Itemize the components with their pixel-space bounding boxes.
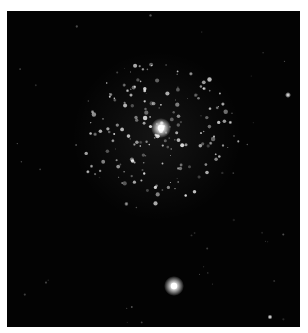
cluster-star: [233, 135, 235, 137]
cluster-star: [154, 186, 157, 189]
faint-star: [233, 219, 235, 221]
cluster-star: [156, 123, 158, 125]
cluster-star: [145, 115, 146, 116]
cluster-star: [215, 106, 219, 110]
cluster-star: [202, 80, 206, 84]
cluster-star: [205, 163, 208, 166]
cluster-star: [174, 139, 176, 141]
faint-star: [203, 266, 204, 267]
cluster-star: [143, 116, 148, 121]
cluster-star: [87, 100, 89, 102]
cluster-star: [134, 116, 137, 119]
cluster-star: [133, 181, 136, 184]
cluster-star: [237, 140, 239, 142]
cluster-star: [130, 174, 133, 177]
cluster-star: [206, 144, 210, 148]
cluster-star: [175, 103, 179, 107]
cluster-star: [158, 107, 159, 108]
cluster-star: [130, 138, 132, 140]
star-field: [7, 11, 300, 327]
cluster-star: [124, 202, 129, 207]
cluster-star: [164, 139, 167, 142]
cluster-star: [123, 101, 126, 104]
cluster-star: [162, 163, 164, 165]
cluster-star: [151, 65, 153, 67]
cluster-star: [155, 134, 157, 136]
cluster-star: [84, 152, 87, 155]
cluster-star: [114, 98, 116, 100]
cluster-star: [165, 132, 167, 134]
isolated-star: [285, 92, 291, 98]
cluster-star: [75, 144, 77, 146]
cluster-star: [123, 171, 124, 172]
cluster-star: [193, 190, 197, 194]
faint-star: [19, 68, 21, 70]
faint-star: [35, 84, 37, 86]
cluster-star: [163, 125, 165, 127]
faint-star: [191, 234, 193, 236]
cluster-star: [133, 143, 136, 146]
cluster-star: [177, 138, 181, 142]
faint-star: [282, 318, 284, 320]
cluster-star: [176, 88, 180, 92]
cluster-star: [189, 72, 193, 76]
cluster-star: [138, 75, 139, 76]
cluster-star: [93, 132, 97, 136]
cluster-star: [98, 169, 101, 172]
cluster-star: [200, 85, 202, 87]
isolated-star: [268, 315, 273, 320]
cluster-star: [165, 91, 169, 95]
cluster-star: [133, 64, 137, 68]
cluster-star: [167, 186, 170, 189]
cluster-star: [177, 123, 180, 126]
astronomical-image: [7, 11, 300, 327]
cluster-star: [99, 129, 103, 133]
cluster-star: [169, 125, 172, 128]
cluster-star: [116, 165, 120, 169]
faint-star: [141, 321, 143, 323]
cluster-star: [111, 139, 115, 143]
cluster-star: [214, 158, 217, 161]
cluster-star: [130, 88, 132, 90]
cluster-star: [145, 92, 147, 94]
cluster-star: [118, 176, 120, 178]
bright-star-core: [171, 283, 177, 289]
cluster-star: [106, 82, 107, 83]
cluster-star: [162, 144, 164, 146]
cluster-star: [223, 109, 227, 113]
cluster-star: [141, 169, 143, 171]
faint-star: [45, 282, 47, 284]
faint-star: [247, 144, 249, 146]
cluster-star: [115, 159, 118, 162]
cluster-star: [214, 153, 217, 156]
faint-star: [265, 241, 266, 242]
faint-star: [273, 280, 275, 282]
cluster-star: [205, 116, 208, 119]
cluster-star: [208, 125, 212, 129]
faint-star: [199, 274, 200, 275]
cluster-star: [89, 132, 92, 135]
faint-star: [21, 161, 23, 163]
faint-star: [212, 284, 213, 285]
cluster-star: [176, 177, 178, 179]
cluster-star: [170, 182, 172, 184]
cluster-star: [144, 111, 148, 115]
cluster-star: [141, 68, 145, 72]
cluster-star: [177, 71, 179, 73]
cluster-star: [108, 131, 111, 134]
faint-star: [124, 68, 125, 69]
cluster-star: [113, 133, 115, 135]
faint-star: [267, 241, 268, 242]
cluster-star: [150, 101, 154, 105]
cluster-star: [217, 121, 220, 124]
faint-star: [24, 294, 26, 296]
faint-star: [17, 143, 18, 144]
faint-star: [131, 306, 133, 308]
faint-star: [149, 14, 151, 16]
cluster-star: [153, 201, 157, 205]
faint-star: [282, 233, 284, 235]
cluster-star: [205, 171, 209, 175]
cluster-star: [223, 120, 227, 124]
faint-star: [206, 247, 208, 249]
cluster-star: [184, 194, 186, 196]
